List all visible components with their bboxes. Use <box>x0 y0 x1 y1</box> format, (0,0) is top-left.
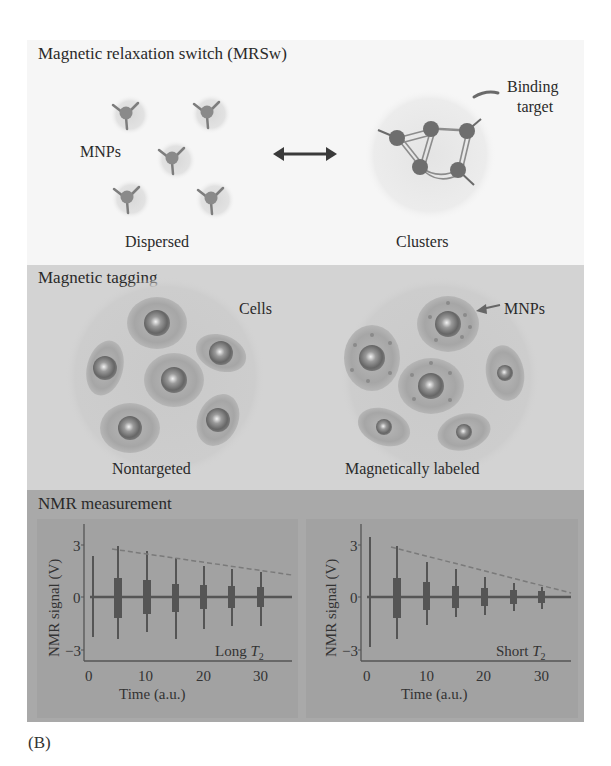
y-tick-neg3: −3 <box>65 643 81 659</box>
dispersed-label: Dispersed <box>125 233 189 251</box>
x-tick-10: 10 <box>419 668 434 684</box>
magnetically-labeled-label: Magnetically labeled <box>345 460 480 478</box>
mnps-label: MNPs <box>80 143 121 161</box>
mnp-icon <box>195 180 235 220</box>
mnp-icon <box>111 179 151 219</box>
y-tick-neg3: −3 <box>342 643 358 659</box>
binding-target-icon <box>474 92 498 97</box>
mnp-icon <box>156 140 196 180</box>
cell-icon <box>144 353 204 407</box>
nontargeted-label: Nontargeted <box>112 460 191 478</box>
cell-icon <box>100 403 160 453</box>
cell-icon <box>127 297 187 349</box>
mnp-icon <box>191 94 231 134</box>
labeled-cell-icon <box>344 325 400 391</box>
y-tick-0: 0 <box>73 590 81 606</box>
y-tick-0: 0 <box>350 590 358 606</box>
mnps-pointer-label: MNPs <box>504 300 545 318</box>
binding-target-label-line1: Binding <box>507 78 559 96</box>
labeled-cell-icon <box>417 296 479 352</box>
x-tick-10: 10 <box>138 668 153 684</box>
x-axis-label: Time (a.u.) <box>119 686 186 703</box>
double-arrow-icon <box>273 147 337 161</box>
y-axis-label: NMR signal (V) <box>46 559 63 657</box>
binding-target-label-line2: target <box>517 98 553 116</box>
x-tick-20: 20 <box>476 668 491 684</box>
figure-label: (B) <box>28 733 51 753</box>
clusters-label: Clusters <box>396 233 448 251</box>
labeled-cell-icon <box>398 358 464 414</box>
y-axis-label: NMR signal (V) <box>323 559 340 657</box>
x-tick-0: 0 <box>363 668 371 684</box>
nmr-title: NMR measurement <box>38 494 172 514</box>
mrsw-illustration <box>0 0 611 266</box>
short-t2-chart: 3 0 −3 0 10 20 30 Time (a.u.) NMR signal… <box>306 519 578 718</box>
long-t2-chart: 3 0 −3 0 10 20 30 Time (a.u.) NMR signal… <box>37 519 298 718</box>
x-tick-30: 30 <box>253 668 268 684</box>
cells-label: Cells <box>239 300 272 318</box>
x-tick-30: 30 <box>534 668 549 684</box>
x-tick-20: 20 <box>196 668 211 684</box>
mnp-icon <box>110 95 150 135</box>
cluster-icon <box>364 89 496 221</box>
tagging-illustration <box>0 265 611 490</box>
y-tick-3: 3 <box>73 538 81 554</box>
x-tick-0: 0 <box>85 668 93 684</box>
y-tick-3: 3 <box>350 538 358 554</box>
x-axis-label: Time (a.u.) <box>401 686 468 703</box>
